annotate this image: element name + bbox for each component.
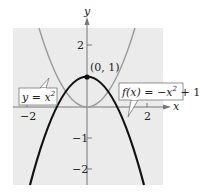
y-tick-label-neg2: −2 <box>72 163 88 176</box>
y-axis-arrow-icon <box>85 17 90 25</box>
x-axis-arrow-icon <box>163 105 171 110</box>
x-tick-label-neg2: −2 <box>20 110 36 123</box>
callout-text-f-of-x: f(x) = −x2 + 1 <box>121 85 200 99</box>
y-axis-label: y <box>83 5 91 18</box>
function-graph: x y −2 2 2 −1 −2 (0, 1) y = x2 f(x) = −x… <box>0 0 200 195</box>
y-tick-label-neg1: −1 <box>72 132 88 145</box>
x-tick-label-2: 2 <box>144 110 151 123</box>
y-tick-label-2: 2 <box>77 39 84 52</box>
vertex-point <box>84 74 89 79</box>
x-axis-label: x <box>173 100 180 113</box>
vertex-label: (0, 1) <box>90 61 120 74</box>
callout-text-y-equals-x-squared: y = x2 <box>21 90 56 104</box>
